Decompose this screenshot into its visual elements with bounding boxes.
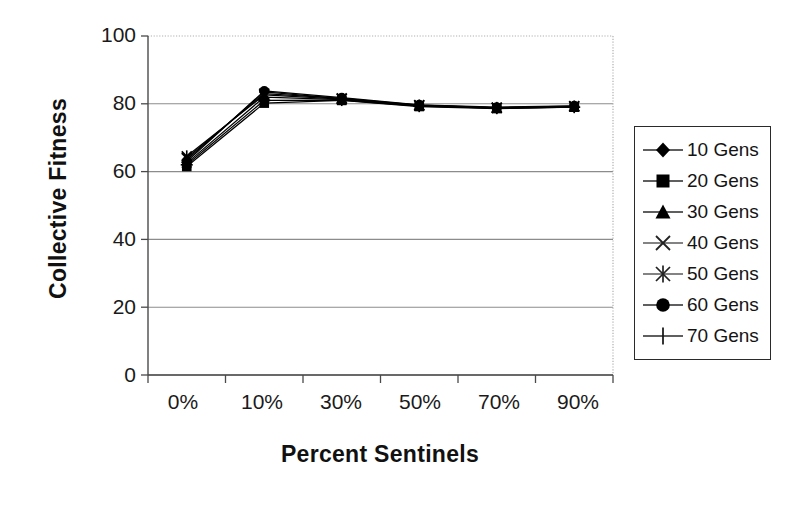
legend-item-60-gens: 60 Gens	[635, 289, 770, 320]
series-40-gens	[182, 89, 580, 163]
legend-label: 70 Gens	[687, 325, 759, 347]
legend-item-10-gens: 10 Gens	[635, 134, 770, 165]
legend-item-30-gens: 30 Gens	[635, 196, 770, 227]
square-marker-icon	[642, 170, 684, 192]
legend-item-40-gens: 40 Gens	[635, 227, 770, 258]
legend-label: 40 Gens	[687, 232, 759, 254]
legend-label: 60 Gens	[687, 294, 759, 316]
plus-marker-icon	[642, 325, 684, 347]
triangle-marker-icon	[642, 201, 684, 223]
series-60-gens	[182, 86, 580, 167]
series-line	[187, 91, 575, 162]
diamond-marker-icon	[642, 139, 684, 161]
circle-marker-icon	[642, 294, 684, 316]
asterisk-marker-icon	[642, 263, 684, 285]
plot-frame	[148, 36, 613, 375]
x-marker-icon	[642, 232, 684, 254]
series-70-gens	[181, 94, 581, 171]
gridlines	[148, 104, 613, 375]
legend-label: 20 Gens	[687, 170, 759, 192]
axis-ticks	[141, 36, 613, 383]
legend-item-20-gens: 20 Gens	[635, 165, 770, 196]
chart-figure: Collective Fitness Percent Sentinels 100…	[0, 0, 802, 505]
legend-item-50-gens: 50 Gens	[635, 258, 770, 289]
legend-item-70-gens: 70 Gens	[635, 320, 770, 351]
chart-legend: 10 Gens 20 Gens 30 Gens 40 Gens	[634, 126, 771, 360]
legend-label: 50 Gens	[687, 263, 759, 285]
legend-label: 10 Gens	[687, 139, 759, 161]
legend-label: 30 Gens	[687, 201, 759, 223]
series-50-gens	[182, 89, 580, 162]
data-series	[181, 86, 581, 171]
series-10-gens	[181, 87, 579, 166]
